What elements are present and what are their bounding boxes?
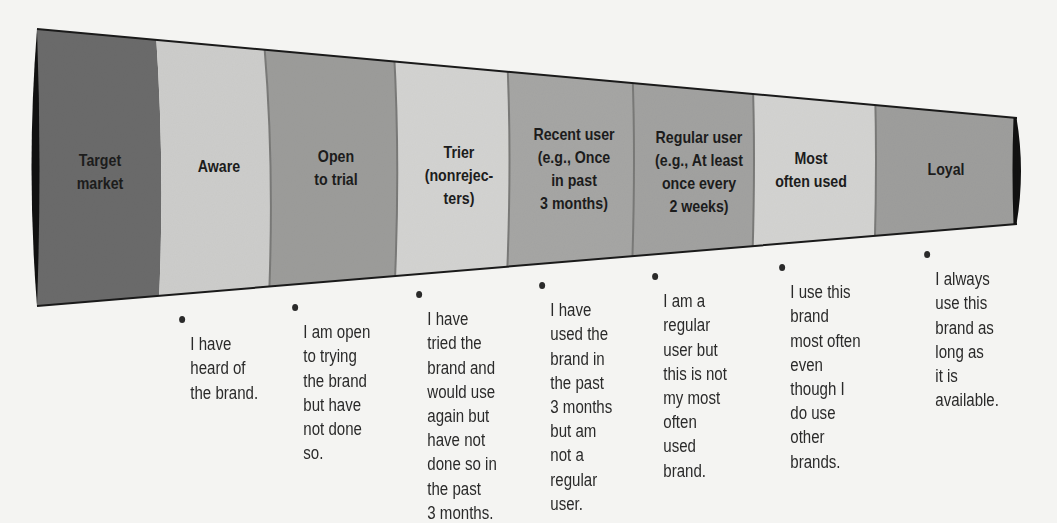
bullet-icon bbox=[652, 273, 658, 280]
stage-description-most-often-used: I use this brand most often even though … bbox=[780, 256, 861, 474]
stage-label-most-often-used: Most often used bbox=[775, 147, 847, 193]
funnel-right-rim bbox=[1014, 118, 1020, 224]
stage-description-recent-user: I have used the brand in the past 3 mont… bbox=[540, 274, 612, 516]
stage-label-aware: Aware bbox=[198, 155, 240, 178]
stage-description-open-to-trial: I am open to trying the brand but have n… bbox=[293, 296, 370, 465]
bullet-icon bbox=[539, 282, 545, 289]
stage-label-trier: Trier (nonrejec- ters) bbox=[425, 141, 494, 210]
stage-description-trier: I have tried the brand and would use aga… bbox=[417, 283, 497, 523]
bullet-icon bbox=[416, 291, 422, 298]
stage-label-regular-user: Regular user (e.g., At least once every … bbox=[655, 126, 743, 218]
stage-label-target-market: Target market bbox=[77, 149, 124, 195]
stage-description-loyal: I always use this brand as long as it is… bbox=[925, 243, 999, 412]
bullet-icon bbox=[924, 251, 930, 258]
stage-description-aware: I have heard of the brand. bbox=[180, 308, 258, 405]
stage-label-open-to-trial: Open to trial bbox=[314, 145, 357, 191]
bullet-icon bbox=[779, 264, 785, 271]
stage-label-loyal: Loyal bbox=[927, 158, 964, 181]
bullet-icon bbox=[292, 304, 298, 311]
bullet-icon bbox=[179, 316, 185, 323]
stage-label-recent-user: Recent user (e.g., Once in past 3 months… bbox=[533, 123, 614, 215]
stage-description-regular-user: I am a regular user but this is not my m… bbox=[653, 265, 727, 483]
